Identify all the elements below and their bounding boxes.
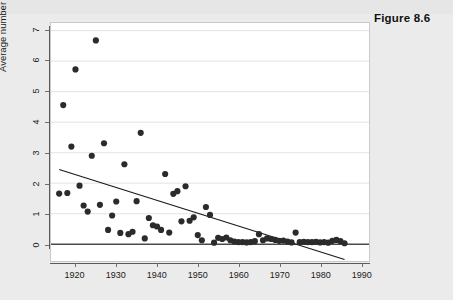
x-tick-label: 1980 — [301, 270, 341, 280]
data-point — [81, 202, 87, 208]
x-tick-mark — [198, 263, 199, 267]
data-point — [174, 188, 180, 194]
data-point — [72, 66, 78, 72]
data-point — [341, 240, 347, 246]
y-tick-label: 0 — [31, 238, 41, 252]
y-tick-mark — [45, 122, 49, 123]
x-tick-mark — [321, 263, 322, 267]
data-point — [166, 230, 172, 236]
y-tick-label: 5 — [31, 84, 41, 98]
y-tick-mark — [45, 184, 49, 185]
x-tick-mark — [362, 263, 363, 267]
y-axis-title: Average number of lives lost — [0, 0, 8, 72]
data-point — [56, 190, 62, 196]
data-point — [256, 231, 262, 237]
x-tick-mark — [116, 263, 117, 267]
figure-root: Figure 8.6 Average number of lives lost … — [0, 0, 453, 300]
data-point — [211, 240, 217, 246]
scatter-plot-canvas — [51, 23, 369, 261]
x-tick-label: 1930 — [96, 270, 136, 280]
data-point — [117, 230, 123, 236]
data-point — [101, 140, 107, 146]
y-tick-label: 3 — [31, 146, 41, 160]
y-tick-mark — [45, 245, 49, 246]
data-point — [162, 171, 168, 177]
data-point — [60, 102, 66, 108]
y-tick-mark — [45, 214, 49, 215]
data-point — [288, 239, 294, 245]
data-point — [252, 238, 258, 244]
data-point — [182, 183, 188, 189]
x-tick-mark — [75, 263, 76, 267]
data-point — [89, 153, 95, 159]
data-point — [68, 144, 74, 150]
data-point — [76, 183, 82, 189]
x-tick-label: 1990 — [342, 270, 382, 280]
x-tick-label: 1970 — [260, 270, 300, 280]
data-point — [134, 198, 140, 204]
figure-caption: Figure 8.6 — [374, 12, 430, 24]
data-point — [138, 130, 144, 136]
y-tick-mark — [45, 60, 49, 61]
y-tick-label: 4 — [31, 115, 41, 129]
data-point — [203, 204, 209, 210]
y-tick-mark — [45, 153, 49, 154]
data-point — [207, 212, 213, 218]
data-point — [121, 161, 127, 167]
x-tick-label: 1960 — [219, 270, 259, 280]
x-axis-spine — [50, 263, 370, 264]
x-tick-mark — [157, 263, 158, 267]
data-point — [109, 212, 115, 218]
y-tick-mark — [45, 91, 49, 92]
x-tick-mark — [239, 263, 240, 267]
data-point — [199, 237, 205, 243]
data-point — [293, 230, 299, 236]
data-point — [195, 232, 201, 238]
x-tick-label: 1940 — [137, 270, 177, 280]
y-tick-mark — [45, 30, 49, 31]
data-point — [97, 202, 103, 208]
data-point — [85, 208, 91, 214]
x-tick-mark — [280, 263, 281, 267]
y-tick-label: 2 — [31, 177, 41, 191]
x-tick-label: 1920 — [55, 270, 95, 280]
data-point — [158, 227, 164, 233]
data-point — [178, 218, 184, 224]
data-point — [93, 37, 99, 43]
x-tick-label: 1950 — [178, 270, 218, 280]
data-point — [64, 190, 70, 196]
data-point — [129, 229, 135, 235]
data-point — [142, 235, 148, 241]
data-point — [191, 214, 197, 220]
plot-area — [50, 22, 370, 262]
data-point — [146, 215, 152, 221]
data-point — [105, 227, 111, 233]
data-point — [113, 198, 119, 204]
y-tick-label: 7 — [31, 23, 41, 37]
y-tick-label: 1 — [31, 207, 41, 221]
y-tick-label: 6 — [31, 53, 41, 67]
